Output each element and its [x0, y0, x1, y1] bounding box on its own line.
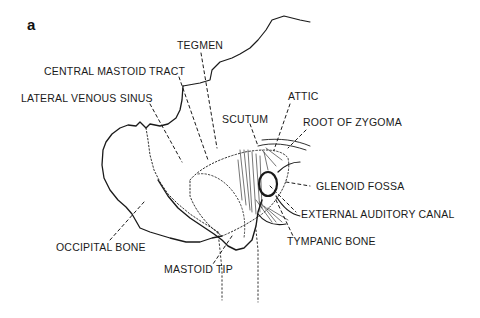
external-auditory-canal-shape [259, 172, 277, 196]
label-tegmen: TEGMEN [177, 40, 223, 51]
panel-label: a [27, 16, 35, 33]
ear-region-dotted-line [256, 230, 258, 302]
zygoma-root-lines [258, 139, 310, 150]
label-tympanic-bone: TYMPANIC BONE [287, 236, 376, 247]
label-external-auditory-canal: EXTERNAL AUDITORY CANAL [301, 209, 455, 220]
leader-central-mastoid-tract [179, 77, 208, 160]
label-occipital-bone: OCCIPITAL BONE [56, 242, 146, 253]
leader-attic [274, 104, 290, 150]
anatomy-figure: a TEGMEN CENTRAL MASTOID TRACT LATERAL V… [0, 0, 480, 318]
label-scutum: SCUTUM [222, 114, 268, 125]
skull-outline-upper [183, 16, 310, 86]
leader-scutum [250, 124, 258, 146]
tympanic-lower-curve [258, 214, 286, 225]
label-glenoid-fossa: GLENOID FOSSA [316, 181, 404, 192]
inner-contour-dotted [146, 128, 218, 232]
leader-lateral-venous-sinus [150, 104, 182, 162]
leader-external-auditory-canal [270, 186, 296, 212]
leader-tympanic-bone [276, 200, 293, 236]
leader-root-of-zygoma [288, 130, 306, 148]
temporal-bone-drawing [0, 0, 480, 318]
skull-outline-left [102, 86, 222, 242]
label-central-mastoid-tract: CENTRAL MASTOID TRACT [44, 66, 185, 77]
ear-region-hatching [238, 148, 288, 222]
label-mastoid-tip: MASTOID TIP [164, 264, 233, 275]
label-root-of-zygoma: ROOT OF ZYGOMA [303, 117, 402, 128]
label-attic: ATTIC [288, 91, 319, 102]
leader-glenoid-fossa [286, 182, 310, 186]
label-lateral-venous-sinus: LATERAL VENOUS SINUS [21, 93, 153, 104]
